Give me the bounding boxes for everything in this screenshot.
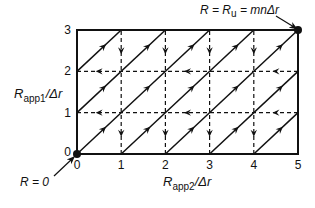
corner-annotation: R = Ru = mnΔr: [200, 3, 280, 19]
x-axis-label: Rapp2/Δr: [163, 174, 212, 192]
origin-leader-arrow: [54, 159, 72, 176]
y-tick-label: 3: [64, 23, 71, 37]
axis-ticks: 0123450123: [64, 23, 301, 172]
solid-diagonal-line: [121, 30, 254, 154]
origin-annotation: R = 0: [20, 175, 49, 189]
y-tick-label: 1: [64, 106, 71, 120]
y-axis-label-suffix: /Δr: [45, 86, 63, 101]
solid-diagonal-line: [77, 30, 121, 71]
corner-annotation-post: = mnΔr: [237, 3, 280, 17]
left-arrow-icon: [272, 109, 279, 115]
x-tick-label: 0: [74, 158, 81, 172]
y-tick-label: 2: [64, 64, 71, 78]
y-tick-label: 0: [64, 145, 71, 159]
corner-point: [294, 26, 302, 34]
solid-diagonal-line: [254, 113, 298, 154]
solid-diagonal-line: [77, 30, 210, 154]
x-tick-label: 3: [206, 158, 213, 172]
x-axis-label-sub: app2: [172, 181, 195, 192]
y-axis-label-main: R: [14, 86, 23, 101]
solid-diagonal-line: [77, 30, 165, 113]
x-tick-label: 5: [295, 158, 302, 172]
x-tick-label: 4: [250, 158, 257, 172]
origin-point: [73, 150, 81, 158]
y-axis-label-sub: app1: [23, 93, 46, 104]
corner-leader-arrow: [276, 16, 294, 27]
y-axis-label: Rapp1/Δr: [14, 86, 63, 104]
lattice-diagram: 0123450123 R = 0 R = Ru = mnΔr Rapp1/Δr …: [0, 0, 315, 208]
x-tick-label: 2: [162, 158, 169, 172]
left-arrow-icon: [272, 68, 279, 74]
solid-diagonal-line: [165, 30, 298, 154]
x-tick-label: 1: [118, 158, 125, 172]
x-axis-label-main: R: [163, 174, 172, 189]
x-axis-label-suffix: /Δr: [194, 174, 212, 189]
solid-diagonals: [77, 30, 298, 154]
corner-annotation-pre: R = R: [200, 3, 231, 17]
